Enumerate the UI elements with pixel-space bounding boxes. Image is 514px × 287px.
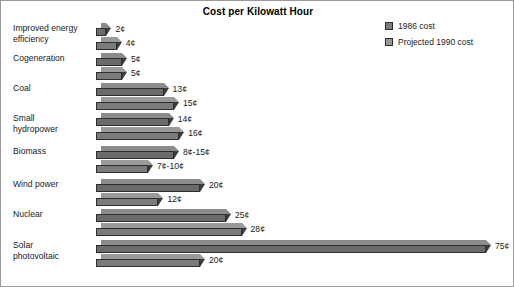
- bar-side-face: [486, 245, 491, 253]
- bar-front-face: [96, 58, 122, 66]
- chart-row: Wind power20¢12¢: [1, 179, 514, 209]
- bar: [96, 113, 174, 126]
- bar-value-label: 13¢: [173, 84, 187, 94]
- bar-value-label: 7¢-10¢: [157, 161, 184, 171]
- chart-plot-area: Improved energy efficiency2¢4¢Cogenerati…: [1, 23, 514, 272]
- bar-front-face: [96, 259, 200, 267]
- bar: [96, 240, 491, 253]
- chart-row: Cogeneration5¢5¢: [1, 53, 514, 83]
- bar-value-label: 12¢: [167, 194, 181, 204]
- bar-front-face: [96, 132, 179, 140]
- bar-value-label: 16¢: [188, 128, 202, 138]
- bar-front-face: [96, 151, 174, 159]
- bar: [96, 254, 205, 267]
- bar-front-face: [96, 72, 122, 80]
- bar-side-face: [164, 88, 169, 96]
- bar-value-label: 20¢: [209, 180, 223, 190]
- chart-row: Improved energy efficiency2¢4¢: [1, 23, 514, 53]
- bar-value-label: 5¢: [131, 68, 141, 78]
- bar-side-face: [122, 72, 127, 80]
- bar-side-face: [226, 214, 231, 222]
- bar: [96, 160, 153, 173]
- bar-front-face: [96, 88, 164, 96]
- bar-value-label: 20¢: [209, 255, 223, 265]
- bar-value-label: 2¢: [115, 24, 125, 34]
- bar-side-face: [174, 151, 179, 159]
- bar-side-face: [148, 165, 153, 173]
- bar: [96, 67, 127, 80]
- category-label: Wind power: [13, 179, 93, 190]
- chart-row: Biomass8¢-15¢7¢-10¢: [1, 146, 514, 179]
- chart-row: Solar photovoltaic75¢20¢: [1, 240, 514, 272]
- category-label: Improved energy efficiency: [13, 23, 93, 44]
- bar-side-face: [200, 259, 205, 267]
- bar: [96, 127, 184, 140]
- bar-side-face: [200, 184, 205, 192]
- bar: [96, 97, 179, 110]
- bar-value-label: 8¢-15¢: [183, 147, 210, 157]
- bar-front-face: [96, 42, 117, 50]
- bar-side-face: [117, 42, 122, 50]
- chart-row: Coal13¢15¢: [1, 83, 514, 113]
- bar-value-label: 25¢: [235, 210, 249, 220]
- bar-value-label: 5¢: [131, 54, 141, 64]
- bar: [96, 37, 122, 50]
- bar: [96, 223, 247, 236]
- bar-front-face: [96, 118, 169, 126]
- bar: [96, 23, 111, 36]
- bar-value-label: 28¢: [251, 224, 265, 234]
- category-label: Solar photovoltaic: [13, 240, 93, 261]
- bar-value-label: 75¢: [495, 241, 509, 251]
- bar-front-face: [96, 184, 200, 192]
- chart-title: Cost per Kilowatt Hour: [1, 6, 514, 17]
- category-label: Biomass: [13, 146, 93, 157]
- bar-value-label: 14¢: [178, 114, 192, 124]
- bar-value-label: 4¢: [126, 38, 136, 48]
- chart-row: Small hydropower14¢16¢: [1, 113, 514, 146]
- bar-side-face: [122, 58, 127, 66]
- bar-side-face: [242, 228, 247, 236]
- category-label: Small hydropower: [13, 113, 93, 134]
- bar-front-face: [96, 214, 226, 222]
- bar-front-face: [96, 228, 242, 236]
- chart-row: Nuclear25¢28¢: [1, 209, 514, 240]
- bar: [96, 209, 231, 222]
- bar-value-label: 15¢: [183, 98, 197, 108]
- bar-side-face: [179, 132, 184, 140]
- bar-side-face: [174, 102, 179, 110]
- chart-container: Cost per Kilowatt Hour 1986 costProjecte…: [0, 0, 514, 287]
- bar-side-face: [169, 118, 174, 126]
- bar-side-face: [158, 198, 163, 206]
- bar-front-face: [96, 198, 158, 206]
- bar: [96, 83, 169, 96]
- bar: [96, 146, 179, 159]
- bar-front-face: [96, 165, 148, 173]
- bar: [96, 179, 205, 192]
- bar-front-face: [96, 245, 486, 253]
- category-label: Coal: [13, 83, 93, 94]
- bar: [96, 193, 163, 206]
- bar-front-face: [96, 28, 106, 36]
- category-label: Cogeneration: [13, 53, 93, 64]
- bar-side-face: [106, 28, 111, 36]
- bar: [96, 53, 127, 66]
- bar-front-face: [96, 102, 174, 110]
- category-label: Nuclear: [13, 209, 93, 220]
